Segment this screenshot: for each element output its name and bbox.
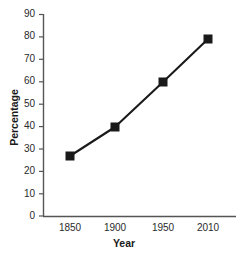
- line-chart: 90 80 70 60 50 40 30 20 10 0 1850 1900 1…: [0, 0, 248, 260]
- y-tick-label: 10: [11, 189, 35, 199]
- x-tick-label: 2010: [188, 223, 228, 233]
- plot-area: [0, 0, 248, 260]
- x-tick-label: 1950: [143, 223, 183, 233]
- y-tick-label: 70: [11, 54, 35, 64]
- y-tick-label: 80: [11, 31, 35, 41]
- data-point-marker: [66, 152, 75, 161]
- data-point-marker: [159, 78, 168, 87]
- y-axis-title: Percentage: [9, 78, 20, 158]
- data-point-marker: [204, 35, 213, 44]
- data-markers: [66, 35, 213, 161]
- y-tick-label: 0: [11, 211, 35, 221]
- y-tick-label: 90: [11, 9, 35, 19]
- data-line: [70, 39, 208, 156]
- x-axis-title: Year: [0, 238, 248, 249]
- data-point-marker: [111, 123, 120, 132]
- y-axis-ticks: [39, 15, 43, 217]
- x-tick-label: 1900: [95, 223, 135, 233]
- x-tick-label: 1850: [50, 223, 90, 233]
- y-tick-label: 20: [11, 166, 35, 176]
